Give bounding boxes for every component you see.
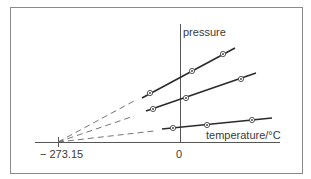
extrapolation-line-2 [58, 116, 134, 142]
extrapolation-lines [58, 101, 154, 142]
origin-label: 0 [176, 148, 182, 160]
measured-line-3 [162, 118, 272, 129]
data-points [147, 51, 254, 130]
data-point-marker [189, 68, 194, 73]
extrapolation-line-1 [58, 101, 134, 142]
data-point-marker [150, 106, 155, 111]
data-point-marker [183, 95, 188, 100]
extrapolation-line-3 [58, 131, 154, 142]
data-point-marker [147, 90, 152, 95]
data-point-marker [249, 117, 254, 122]
data-point-marker [204, 122, 209, 127]
y-axis-label: pressure [183, 26, 226, 38]
pressure-temperature-diagram: pressure temperature/°C − 273.15 0 [0, 0, 311, 179]
data-point-marker [170, 125, 175, 130]
data-point-marker [220, 51, 225, 56]
absolute-zero-label: − 273.15 [40, 148, 83, 160]
data-point-marker [238, 76, 243, 81]
x-axis-label: temperature/°C [206, 129, 281, 141]
measured-lines [142, 48, 272, 129]
